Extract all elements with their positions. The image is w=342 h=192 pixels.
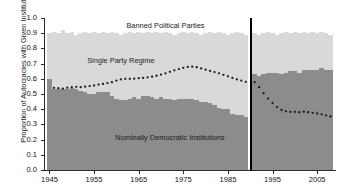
data-point-single-party: [312, 112, 314, 114]
x-tick-label: 2005: [302, 176, 332, 184]
data-point-single-party: [124, 78, 126, 80]
data-point-single-party: [262, 92, 264, 94]
data-point-single-party: [329, 115, 331, 117]
data-point-single-party: [75, 86, 77, 88]
data-point-single-party: [254, 81, 256, 83]
y-tick-label: 0.1: [15, 151, 37, 159]
data-point-single-party: [316, 112, 318, 114]
chart-annotation-1: Banned Political Parties: [126, 22, 204, 29]
y-tick-label: 0.5: [15, 90, 37, 98]
y-tick-label: 0.9: [15, 29, 37, 37]
data-point-single-party: [191, 65, 193, 67]
data-point-single-party: [200, 67, 202, 69]
x-tick-label: 1995: [258, 176, 288, 184]
y-tick-label: 0.6: [15, 75, 37, 83]
x-tick-label: 1955: [79, 176, 109, 184]
data-point-single-party: [102, 83, 104, 85]
data-point-single-party: [142, 77, 144, 79]
data-point-single-party: [160, 73, 162, 75]
data-point-single-party: [218, 72, 220, 74]
y-tick-label: 0.4: [15, 105, 37, 113]
data-point-single-party: [245, 81, 247, 83]
data-point-single-party: [97, 83, 99, 85]
plot-area: [45, 18, 336, 170]
data-point-single-party: [146, 76, 148, 78]
x-tick-mark: [183, 171, 184, 174]
data-point-single-party: [222, 74, 224, 76]
data-point-single-party: [115, 79, 117, 81]
data-point-single-party: [164, 72, 166, 74]
x-tick-mark: [94, 171, 95, 174]
data-point-single-party: [294, 111, 296, 113]
x-tick-mark: [49, 171, 50, 174]
chart-figure: Proportion of Autocracies with Given Ins…: [0, 0, 342, 192]
y-tick-label: 0.3: [15, 120, 37, 128]
data-point-single-party: [173, 69, 175, 71]
data-point-single-party: [169, 71, 171, 73]
data-point-single-party: [151, 76, 153, 78]
x-tick-label: 1985: [213, 176, 243, 184]
data-point-single-party: [53, 87, 55, 89]
data-point-single-party: [84, 86, 86, 88]
data-point-single-party: [298, 111, 300, 113]
data-point-single-party: [258, 86, 260, 88]
data-point-single-party: [80, 86, 82, 88]
x-tick-mark: [139, 171, 140, 174]
data-point-single-party: [178, 68, 180, 70]
data-point-single-party: [280, 109, 282, 111]
y-tick-label: 0.2: [15, 136, 37, 144]
data-point-single-party: [138, 77, 140, 79]
data-point-single-party: [187, 66, 189, 68]
data-point-single-party: [271, 102, 273, 104]
data-point-single-party: [325, 114, 327, 116]
chart-annotation-2: Single Party Regime: [87, 57, 154, 64]
data-point-single-party: [240, 79, 242, 81]
area-nominally-democratic: [252, 68, 332, 170]
data-point-single-party: [276, 106, 278, 108]
data-point-single-party: [267, 97, 269, 99]
x-tick-mark: [317, 171, 318, 174]
x-tick-label: 1975: [168, 176, 198, 184]
data-point-single-party: [71, 86, 73, 88]
data-point-single-party: [93, 84, 95, 86]
data-point-single-party: [88, 85, 90, 87]
y-tick-label: 1.0: [15, 14, 37, 22]
x-axis-line: [45, 170, 336, 171]
data-point-single-party: [303, 110, 305, 112]
data-point-single-party: [236, 78, 238, 80]
data-point-single-party: [231, 77, 233, 79]
data-point-single-party: [204, 69, 206, 71]
x-tick-label: 1945: [34, 176, 64, 184]
data-point-single-party: [57, 87, 59, 89]
data-point-single-party: [182, 67, 184, 69]
data-point-single-party: [106, 82, 108, 84]
data-point-single-party: [120, 78, 122, 80]
y-tick-label: 0.0: [15, 166, 37, 174]
data-point-single-party: [129, 78, 131, 80]
x-tick-mark: [228, 171, 229, 174]
chart-annotation-3: Nominally Democratic Institutions: [115, 134, 224, 141]
x-tick-label: 1965: [124, 176, 154, 184]
data-point-single-party: [155, 75, 157, 77]
data-point-single-party: [66, 87, 68, 89]
y-tick-label: 0.7: [15, 60, 37, 68]
x-tick-mark: [273, 171, 274, 174]
data-point-single-party: [227, 75, 229, 77]
data-point-single-party: [62, 87, 64, 89]
data-point-single-party: [133, 77, 135, 79]
data-point-single-party: [289, 111, 291, 113]
data-point-single-party: [196, 66, 198, 68]
data-point-single-party: [320, 113, 322, 115]
y-tick-label: 0.8: [15, 44, 37, 52]
data-point-single-party: [285, 110, 287, 112]
data-point-single-party: [209, 70, 211, 72]
period-break-divider: [250, 18, 252, 171]
data-point-single-party: [213, 71, 215, 73]
data-point-single-party: [307, 111, 309, 113]
data-point-single-party: [111, 81, 113, 83]
